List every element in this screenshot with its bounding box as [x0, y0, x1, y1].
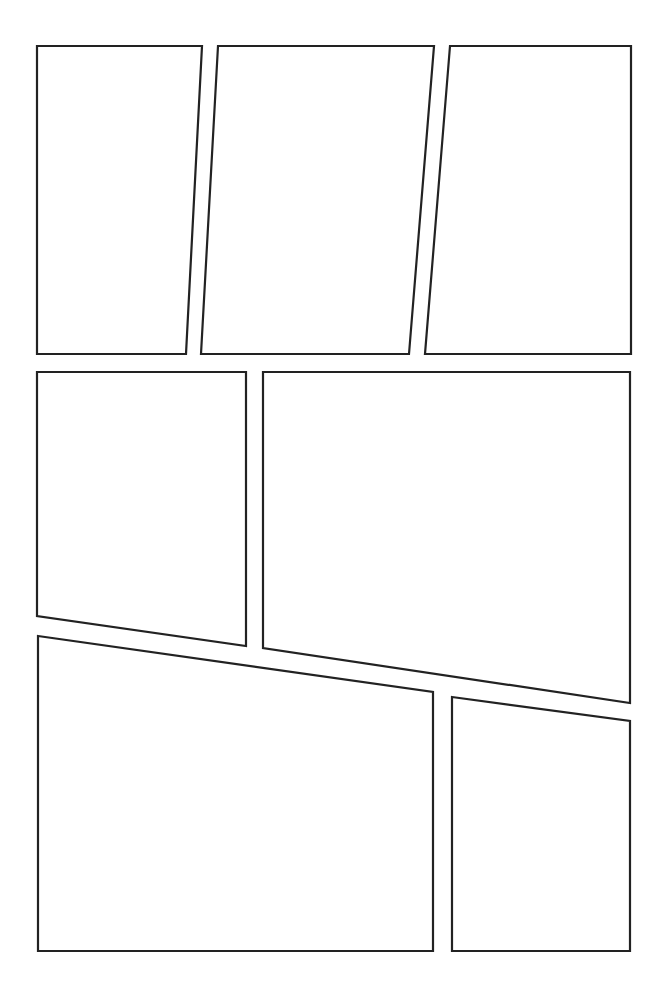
- panel-2: [201, 46, 434, 354]
- panel-7: [452, 697, 630, 951]
- comic-page-template: [0, 0, 664, 986]
- panel-3: [425, 46, 631, 354]
- panel-1: [37, 46, 202, 354]
- panel-4: [37, 372, 246, 646]
- panel-6: [38, 636, 433, 951]
- panel-layout: [0, 0, 664, 986]
- panel-5: [263, 372, 630, 703]
